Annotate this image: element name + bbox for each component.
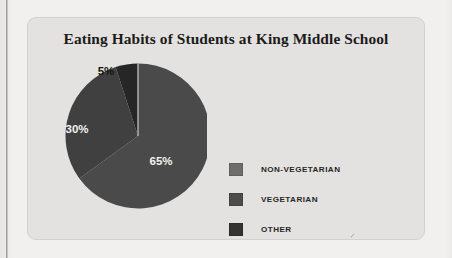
- legend-item-label: VEGETARIAN: [261, 195, 318, 204]
- pie-label-vegetarian: 30%: [65, 123, 88, 135]
- scan-edge-line-secondary: [7, 0, 8, 258]
- legend-item-non-vegetarian[interactable]: NON-VEGETARIAN: [229, 158, 409, 180]
- legend-swatch-icon: [229, 163, 243, 176]
- pie-chart-svg: 65% 30% 5%: [39, 52, 207, 222]
- legend-item-other[interactable]: OTHER: [229, 218, 409, 240]
- scan-edge-right: [446, 0, 452, 258]
- legend-item-label: NON-VEGETARIAN: [261, 165, 340, 174]
- legend-item-label: OTHER: [261, 225, 292, 234]
- pie-label-other: 5%: [98, 65, 115, 77]
- pie-chart: 65% 30% 5%: [39, 52, 207, 222]
- legend-swatch-icon: [229, 193, 243, 206]
- chart-legend: NON-VEGETARIAN VEGETARIAN OTHER: [229, 158, 409, 248]
- chart-title: Eating Habits of Students at King Middle…: [28, 30, 424, 48]
- legend-item-vegetarian[interactable]: VEGETARIAN: [229, 188, 409, 210]
- chart-card: Eating Habits of Students at King Middle…: [27, 17, 425, 240]
- scan-artifact-mark: [350, 233, 355, 238]
- pie-label-non-vegetarian: 65%: [149, 155, 172, 167]
- legend-swatch-icon: [229, 223, 243, 236]
